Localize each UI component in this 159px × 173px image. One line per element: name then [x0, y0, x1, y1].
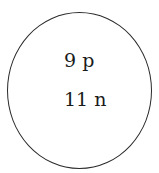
protons-label: 9 p — [64, 51, 94, 70]
neutrons-label: 11 n — [64, 90, 106, 109]
